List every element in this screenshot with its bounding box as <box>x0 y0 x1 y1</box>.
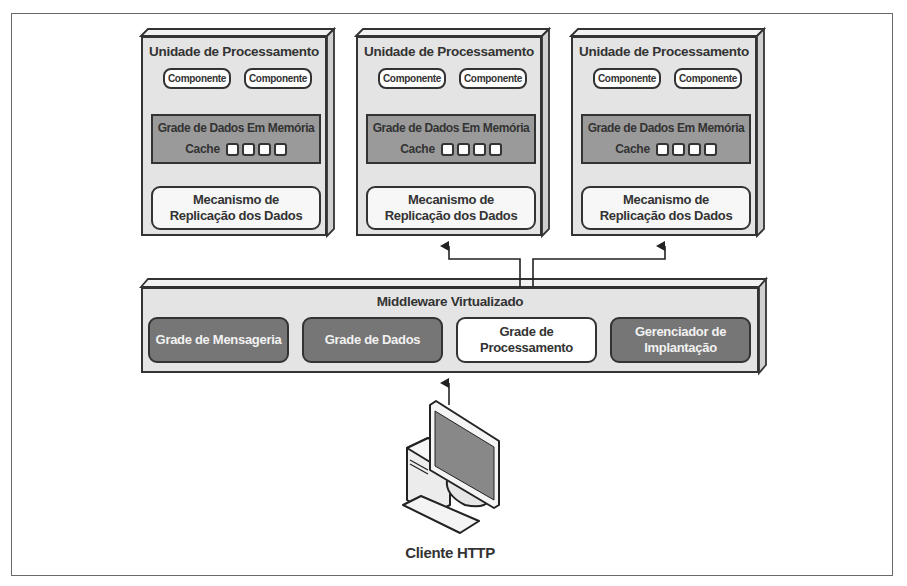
cache-row: Cache <box>368 142 534 156</box>
module-label-line1: Gerenciador de <box>635 324 726 340</box>
cache-slot-icon <box>656 143 669 156</box>
processing-unit-1: Unidade de Processamento Componente Comp… <box>141 36 327 236</box>
module-label: Grade de Dados <box>325 332 421 348</box>
processing-grid: Grade de Processamento <box>456 317 597 363</box>
module-label-line1: Grade de <box>500 324 554 340</box>
cache-slot-icon <box>242 143 255 156</box>
replication-line1: Mecanismo de <box>153 192 319 208</box>
cache-slot-icon <box>672 143 685 156</box>
component-box: Componente <box>674 68 742 89</box>
component-box: Componente <box>378 68 446 89</box>
cache-label: Cache <box>400 142 435 156</box>
processing-unit-2: Unidade de Processamento Componente Comp… <box>356 36 542 236</box>
cache-row: Cache <box>153 142 319 156</box>
processing-unit-title: Unidade de Processamento <box>573 44 755 59</box>
messaging-grid: Grade de Mensageria <box>148 317 289 363</box>
component-box: Componente <box>244 68 312 89</box>
cache-slot-icon <box>688 143 701 156</box>
http-client-label: Cliente HTTP <box>400 544 500 561</box>
cache-slot-icon <box>473 143 486 156</box>
cache-slot-icon <box>489 143 502 156</box>
replication-engine: Mecanismo de Replicação dos Dados <box>581 186 751 230</box>
module-label-line2: Processamento <box>480 340 573 356</box>
replication-engine: Mecanismo de Replicação dos Dados <box>366 186 536 230</box>
cache-label: Cache <box>185 142 220 156</box>
cache-row: Cache <box>583 142 749 156</box>
replication-line2: Replicação dos Dados <box>153 208 319 224</box>
data-grid: Grade de Dados <box>302 317 443 363</box>
processing-unit-3: Unidade de Processamento Componente Comp… <box>571 36 757 236</box>
cache-slot-icon <box>704 143 717 156</box>
middleware-title: Middleware Virtualizado <box>143 294 757 309</box>
in-memory-data-grid: Grade de Dados Em Memória Cache <box>581 114 751 164</box>
replication-line2: Replicação dos Dados <box>583 208 749 224</box>
cache-slot-icon <box>226 143 239 156</box>
data-grid-title: Grade de Dados Em Memória <box>153 121 319 135</box>
cache-slot-icon <box>457 143 470 156</box>
desktop-computer-icon <box>403 401 499 533</box>
module-label-line2: Implantação <box>644 340 717 356</box>
in-memory-data-grid: Grade de Dados Em Memória Cache <box>151 114 321 164</box>
cache-label: Cache <box>615 142 650 156</box>
processing-unit-title: Unidade de Processamento <box>143 44 325 59</box>
replication-line1: Mecanismo de <box>583 192 749 208</box>
processing-unit-title: Unidade de Processamento <box>358 44 540 59</box>
module-label: Grade de Mensageria <box>156 332 282 348</box>
cache-slot-icon <box>274 143 287 156</box>
replication-line1: Mecanismo de <box>368 192 534 208</box>
in-memory-data-grid: Grade de Dados Em Memória Cache <box>366 114 536 164</box>
deployment-manager: Gerenciador de Implantação <box>610 317 751 363</box>
cache-slot-icon <box>441 143 454 156</box>
cache-slot-icon <box>258 143 271 156</box>
component-box: Componente <box>593 68 661 89</box>
replication-engine: Mecanismo de Replicação dos Dados <box>151 186 321 230</box>
data-grid-title: Grade de Dados Em Memória <box>583 121 749 135</box>
component-box: Componente <box>459 68 527 89</box>
replication-line2: Replicação dos Dados <box>368 208 534 224</box>
virtualized-middleware: Middleware Virtualizado Grade de Mensage… <box>141 287 759 373</box>
component-box: Componente <box>163 68 231 89</box>
data-grid-title: Grade de Dados Em Memória <box>368 121 534 135</box>
